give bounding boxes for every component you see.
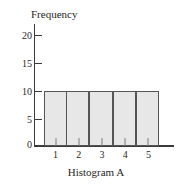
y-tick-label-15: 15	[10, 59, 32, 69]
bin-center-tick-4	[125, 138, 126, 146]
y-axis-title: Frequency	[31, 8, 77, 21]
x-tick-label-1: 1	[44, 149, 67, 160]
y-tick-mark-20	[35, 35, 42, 36]
y-axis-line	[34, 24, 35, 146]
bin-center-tick-2	[78, 138, 79, 146]
histogram-figure: Frequency 20 15 10 5 0	[0, 0, 192, 188]
bar-item	[90, 91, 113, 146]
bin-center-tick-5	[148, 138, 149, 146]
bar-item	[137, 91, 160, 146]
chart-caption: Histogram A	[0, 166, 192, 179]
bar-item	[67, 91, 90, 146]
bar-item	[114, 91, 137, 146]
y-tick-label-0: 0	[10, 140, 32, 150]
y-tick-mark-10	[35, 91, 42, 92]
bar-item	[44, 91, 67, 146]
x-tick-label-3: 3	[90, 149, 113, 160]
y-tick-mark-15	[35, 63, 42, 64]
y-tick-mark-5	[35, 119, 42, 120]
x-tick-label-4: 4	[114, 149, 137, 160]
x-tick-label-2: 2	[67, 149, 90, 160]
x-axis-tick-labels: 1 2 3 4 5	[44, 149, 160, 160]
bin-center-tick-3	[102, 138, 103, 146]
y-tick-label-20: 20	[10, 31, 32, 41]
y-tick-label-10: 10	[10, 87, 32, 97]
y-tick-label-5: 5	[10, 115, 32, 125]
bar-series	[44, 91, 160, 146]
bin-center-tick-1	[55, 138, 56, 146]
x-tick-label-5: 5	[137, 149, 160, 160]
